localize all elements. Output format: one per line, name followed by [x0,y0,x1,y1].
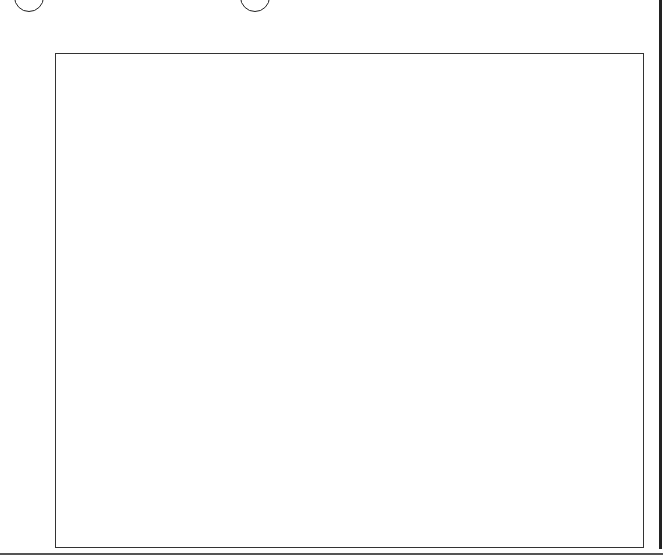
partial-circle-top-left [14,0,44,12]
frame-border-right [659,0,662,549]
frame-border-bottom [0,553,663,555]
number-grid [55,53,644,548]
partial-circle-top-middle [240,0,270,12]
